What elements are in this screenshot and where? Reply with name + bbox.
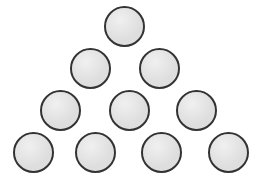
circle-row4-col4 xyxy=(208,132,249,173)
circle-row2-col1 xyxy=(70,48,111,89)
circle-row4-col3 xyxy=(141,132,182,173)
circle-row3-col1 xyxy=(40,90,81,131)
circle-row4-col2 xyxy=(75,132,116,173)
circle-row4-col1 xyxy=(13,132,54,173)
circle-arrangement-canvas xyxy=(0,0,258,183)
circle-row1-col1 xyxy=(104,6,145,47)
circle-row2-col2 xyxy=(139,48,180,89)
circle-row3-col2 xyxy=(109,90,150,131)
circle-row3-col3 xyxy=(176,90,217,131)
